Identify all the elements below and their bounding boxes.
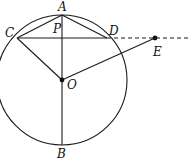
segment-co xyxy=(17,38,62,80)
point-o-dot xyxy=(60,78,65,83)
point-e-dot xyxy=(153,36,158,41)
geometry-figure: A C P D E O B xyxy=(0,0,188,160)
segment-oe xyxy=(62,38,155,80)
label-b: B xyxy=(56,147,66,160)
label-o: O xyxy=(67,78,77,92)
label-c: C xyxy=(5,26,14,40)
label-a: A xyxy=(57,0,67,14)
label-d: D xyxy=(108,24,119,38)
label-e: E xyxy=(152,45,162,59)
label-p: P xyxy=(52,22,62,36)
